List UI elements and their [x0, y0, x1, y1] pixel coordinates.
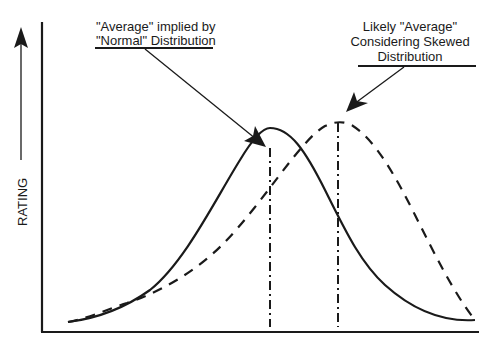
skewed-pointer-arrow-icon — [346, 67, 404, 112]
rating-arrow-icon — [14, 27, 28, 160]
normal-average-label-line1: "Average" implied by — [96, 19, 216, 34]
skewed-average-label-line3: Distribution — [377, 49, 442, 64]
y-axis-label: RATING — [15, 178, 30, 226]
normal-distribution-curve — [68, 128, 475, 322]
skewed-average-label-line1: Likely "Average" — [363, 19, 458, 34]
skewed-average-label-line2: Considering Skewed — [350, 34, 469, 49]
skewed-distribution-curve — [68, 122, 475, 322]
normal-pointer-arrow-icon — [145, 49, 266, 147]
normal-average-label-line2: "Normal" Distribution — [96, 33, 216, 48]
rating-distribution-diagram: RATING "Average" implied by "Normal" Dis… — [0, 0, 495, 346]
